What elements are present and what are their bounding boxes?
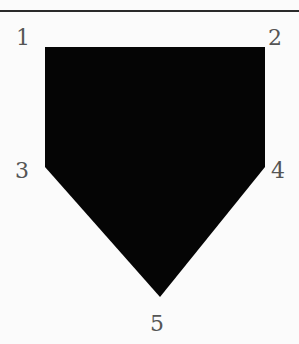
home-plate-pentagon — [45, 47, 265, 297]
vertex-label-5: 5 — [150, 313, 164, 335]
vertex-label-4: 4 — [271, 160, 285, 182]
vertex-label-3: 3 — [15, 160, 29, 182]
pentagon-diagram — [0, 0, 299, 344]
vertex-label-2: 2 — [268, 27, 282, 49]
vertex-label-1: 1 — [16, 27, 30, 49]
